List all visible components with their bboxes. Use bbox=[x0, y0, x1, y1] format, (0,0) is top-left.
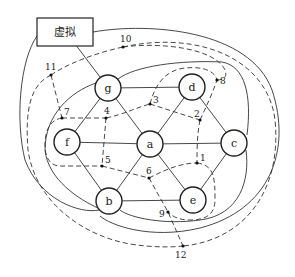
dual-point-6 bbox=[147, 176, 150, 179]
dual-point-5 bbox=[100, 164, 103, 167]
node-c: c bbox=[221, 130, 247, 156]
node-label-d: d bbox=[188, 81, 195, 94]
dual-label-4: 4 bbox=[104, 106, 110, 116]
virtual-box: 虚拟 bbox=[37, 18, 93, 46]
node-f: f bbox=[54, 129, 80, 155]
dual-label-5: 5 bbox=[105, 155, 111, 165]
node-label-a: a bbox=[147, 138, 154, 151]
dual-label-11: 11 bbox=[45, 62, 56, 72]
dual-label-10: 10 bbox=[120, 34, 132, 44]
node-label-g: g bbox=[104, 82, 111, 95]
dual-point-8 bbox=[215, 78, 218, 81]
node-a: a bbox=[137, 131, 163, 157]
dual-label-12: 12 bbox=[175, 250, 186, 260]
dual-point-3 bbox=[148, 102, 151, 105]
dual-label-6: 6 bbox=[146, 166, 152, 176]
node-label-c: c bbox=[231, 137, 237, 150]
dual-label-9: 9 bbox=[159, 209, 165, 219]
dual-label-7: 7 bbox=[64, 107, 70, 117]
node-label-b: b bbox=[105, 195, 112, 208]
dual-point-12 bbox=[181, 244, 184, 247]
node-b: b bbox=[96, 188, 122, 214]
dual-label-1: 1 bbox=[200, 153, 206, 163]
dual-label-8: 8 bbox=[220, 76, 226, 86]
dual-label-2: 2 bbox=[194, 109, 200, 119]
graph-diagram: 虚拟 g d f a c b e 1 2 3 4 5 bbox=[0, 0, 295, 277]
node-g: g bbox=[95, 75, 121, 101]
node-label-e: e bbox=[190, 194, 197, 207]
dual-point-1 bbox=[195, 161, 198, 164]
dual-point-9 bbox=[166, 210, 169, 213]
dual-point-10 bbox=[121, 45, 124, 48]
node-e: e bbox=[180, 187, 206, 213]
virtual-box-label: 虚拟 bbox=[54, 25, 76, 39]
dual-point-11 bbox=[49, 73, 52, 76]
dual-point-4 bbox=[104, 116, 107, 119]
node-d: d bbox=[179, 74, 205, 100]
dual-label-3: 3 bbox=[153, 95, 159, 105]
